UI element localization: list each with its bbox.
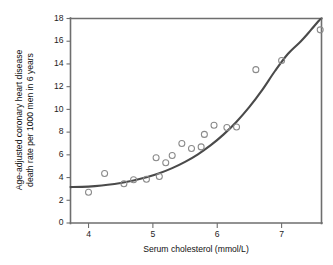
- y-tick-label-0: 0: [59, 217, 64, 227]
- fitted-trend-curve: [71, 19, 321, 187]
- y-tick-label-10: 10: [54, 104, 64, 114]
- y-axis-ticks: 024681012141618: [54, 13, 71, 228]
- data-point: [253, 67, 259, 73]
- x-tick-label-4: 4: [86, 229, 91, 239]
- data-point: [198, 144, 204, 150]
- scatter-plot: 024681012141618 4567 Serum cholesterol (…: [0, 0, 333, 265]
- data-point-markers: [86, 27, 324, 195]
- y-tick-label-14: 14: [54, 58, 64, 68]
- y-tick-label-8: 8: [59, 126, 64, 136]
- y-axis-title: Age-adjusted coronary heart disease deat…: [14, 50, 35, 191]
- x-tick-label-5: 5: [150, 229, 155, 239]
- chart-figure: 024681012141618 4567 Serum cholesterol (…: [0, 0, 333, 265]
- data-point: [163, 160, 169, 166]
- y-tick-label-16: 16: [54, 35, 64, 45]
- data-point: [153, 155, 159, 161]
- y-tick-label-12: 12: [54, 81, 64, 91]
- y-tick-label-6: 6: [59, 149, 64, 159]
- data-point: [211, 122, 217, 128]
- x-axis-title: Serum cholesterol (mmol/L): [143, 244, 249, 254]
- data-point: [102, 171, 108, 177]
- data-point: [201, 131, 207, 137]
- data-point: [169, 152, 175, 158]
- data-point: [234, 124, 240, 130]
- data-point: [86, 189, 92, 195]
- data-point: [179, 140, 185, 146]
- y-axis-title-line-2: death rate per 1000 men in 6 years: [25, 53, 35, 187]
- x-tick-label-6: 6: [215, 229, 220, 239]
- data-point: [188, 146, 194, 152]
- y-tick-label-4: 4: [59, 172, 64, 182]
- y-tick-label-18: 18: [54, 13, 64, 23]
- y-axis-title-line-1: Age-adjusted coronary heart disease: [14, 50, 24, 191]
- data-point: [317, 27, 323, 33]
- plot-axes: [71, 18, 323, 224]
- x-tick-label-7: 7: [279, 229, 284, 239]
- x-axis-ticks: 4567: [86, 223, 284, 239]
- data-point: [224, 125, 230, 131]
- y-tick-label-2: 2: [59, 195, 64, 205]
